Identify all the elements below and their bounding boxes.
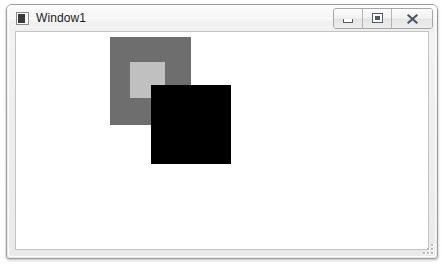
black-rectangle [151, 85, 231, 164]
maximize-icon [372, 13, 383, 23]
app-window-icon [16, 12, 29, 25]
minimize-button[interactable] [334, 9, 363, 28]
close-button[interactable] [392, 9, 432, 28]
desktop-background: Window1 [0, 0, 448, 273]
title-bar[interactable]: Window1 [7, 5, 437, 31]
application-window: Window1 [6, 4, 438, 259]
window-title: Window1 [36, 9, 86, 27]
client-area[interactable] [15, 31, 429, 250]
resize-grip-icon[interactable] [423, 244, 435, 256]
close-icon [406, 13, 418, 24]
maximize-button[interactable] [363, 9, 392, 28]
caption-button-group [333, 8, 433, 29]
minimize-icon [343, 19, 353, 23]
